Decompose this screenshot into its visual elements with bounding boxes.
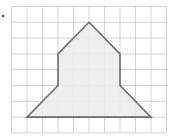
grid-figure (0, 0, 175, 139)
marker-dot (2, 15, 5, 18)
